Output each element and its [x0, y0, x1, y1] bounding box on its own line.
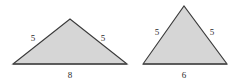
- triangle-right-left-side-label: 5: [150, 28, 164, 37]
- triangle-right-base-label: 6: [177, 71, 191, 80]
- figure-canvas: 5 5 8 5 5 6: [0, 0, 240, 83]
- triangle-left-left-side-label: 5: [26, 34, 40, 43]
- triangle-right-right-side-label: 5: [205, 28, 219, 37]
- triangle-left-right-side-label: 5: [96, 34, 110, 43]
- triangle-left-base-label: 8: [63, 71, 77, 80]
